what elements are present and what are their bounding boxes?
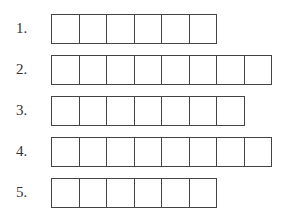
row-number: 5.: [16, 184, 27, 201]
letter-boxes: [51, 137, 272, 167]
letter-box[interactable]: [217, 56, 245, 84]
letter-box[interactable]: [217, 138, 245, 166]
letter-box[interactable]: [52, 56, 80, 84]
letter-box[interactable]: [52, 138, 80, 166]
letter-box[interactable]: [190, 138, 218, 166]
letter-boxes: [51, 178, 217, 208]
letter-box[interactable]: [52, 97, 80, 125]
letter-box[interactable]: [135, 56, 163, 84]
letter-boxes: [51, 55, 272, 85]
letter-box[interactable]: [52, 15, 80, 43]
letter-box[interactable]: [80, 15, 108, 43]
row-number: 1.: [16, 20, 27, 37]
letter-boxes: [51, 96, 245, 126]
letter-box[interactable]: [80, 56, 108, 84]
letter-box[interactable]: [135, 138, 163, 166]
letter-box[interactable]: [107, 179, 135, 207]
letter-boxes: [51, 14, 217, 44]
letter-box[interactable]: [107, 97, 135, 125]
letter-box[interactable]: [162, 56, 190, 84]
letter-box[interactable]: [190, 56, 218, 84]
letter-box[interactable]: [162, 15, 190, 43]
letter-box[interactable]: [190, 97, 218, 125]
letter-box[interactable]: [52, 179, 80, 207]
letter-box[interactable]: [162, 97, 190, 125]
letter-box[interactable]: [107, 15, 135, 43]
letter-box[interactable]: [217, 97, 245, 125]
letter-box[interactable]: [80, 97, 108, 125]
letter-box[interactable]: [135, 97, 163, 125]
row-number: 3.: [16, 102, 27, 119]
row-number: 4.: [16, 143, 27, 160]
letter-box[interactable]: [190, 15, 218, 43]
letter-box[interactable]: [245, 56, 273, 84]
letter-box[interactable]: [135, 179, 163, 207]
letter-box[interactable]: [80, 179, 108, 207]
letter-box[interactable]: [80, 138, 108, 166]
row-number: 2.: [16, 61, 27, 78]
letter-box[interactable]: [245, 138, 273, 166]
letter-box[interactable]: [107, 138, 135, 166]
letter-box[interactable]: [107, 56, 135, 84]
letter-box[interactable]: [162, 138, 190, 166]
letter-box[interactable]: [162, 179, 190, 207]
letter-box[interactable]: [190, 179, 218, 207]
letter-box[interactable]: [135, 15, 163, 43]
